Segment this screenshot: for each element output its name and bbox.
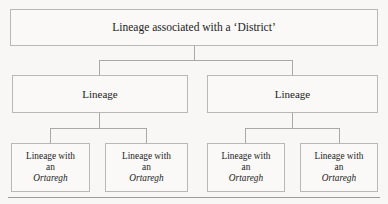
connector-leaf1-drop <box>50 128 51 143</box>
leaf-node-2-line2: an <box>122 162 171 173</box>
leaf-node-3-content: Lineage with an Ortaregh <box>222 151 271 184</box>
leaf-node-3-term: Ortaregh <box>222 173 271 184</box>
leaf-node-2-term: Ortaregh <box>122 173 171 184</box>
root-node-lineage-district: Lineage associated with a ‘District’ <box>10 9 378 46</box>
leaf-node-1-line2: an <box>26 162 75 173</box>
leaf-node-4-term: Ortaregh <box>315 173 364 184</box>
leaf-node-4-line1: Lineage with <box>315 151 364 162</box>
leaf-node-4-line2: an <box>315 162 364 173</box>
leaf-node-lineage-ortaregh-4: Lineage with an Ortaregh <box>300 143 378 192</box>
leaf-node-1-term: Ortaregh <box>26 173 75 184</box>
connector-root-stem <box>194 46 195 60</box>
branch-node-lineage-right: Lineage <box>207 75 378 113</box>
connector-branch-right-drop <box>292 60 293 75</box>
connector-left-leaf-bus <box>50 128 146 129</box>
connector-branch-left-drop <box>99 60 100 75</box>
leaf-node-2-content: Lineage with an Ortaregh <box>122 151 171 184</box>
leaf-node-3-line2: an <box>222 162 271 173</box>
connector-leaf4-drop <box>339 128 340 143</box>
connector-left-branch-stem <box>99 113 100 128</box>
leaf-node-3-line1: Lineage with <box>222 151 271 162</box>
connector-leaf3-drop <box>245 128 246 143</box>
connector-leaf2-drop <box>146 128 147 143</box>
branch-node-left-label: Lineage <box>82 88 117 101</box>
leaf-node-lineage-ortaregh-1: Lineage with an Ortaregh <box>11 143 90 192</box>
leaf-node-lineage-ortaregh-2: Lineage with an Ortaregh <box>105 143 188 192</box>
leaf-node-4-content: Lineage with an Ortaregh <box>315 151 364 184</box>
connector-right-leaf-bus <box>245 128 339 129</box>
leaf-node-lineage-ortaregh-3: Lineage with an Ortaregh <box>207 143 285 192</box>
lineage-hierarchy-diagram: Lineage associated with a ‘District’ Lin… <box>0 0 388 204</box>
connector-right-branch-stem <box>292 113 293 128</box>
root-node-label: Lineage associated with a ‘District’ <box>112 21 276 35</box>
connector-branch-bus <box>99 60 293 61</box>
leaf-node-1-content: Lineage with an Ortaregh <box>26 151 75 184</box>
branch-node-right-label: Lineage <box>275 88 310 101</box>
leaf-node-2-line1: Lineage with <box>122 151 171 162</box>
leaf-node-1-line1: Lineage with <box>26 151 75 162</box>
page-horizontal-rule <box>8 197 380 198</box>
branch-node-lineage-left: Lineage <box>12 75 188 113</box>
